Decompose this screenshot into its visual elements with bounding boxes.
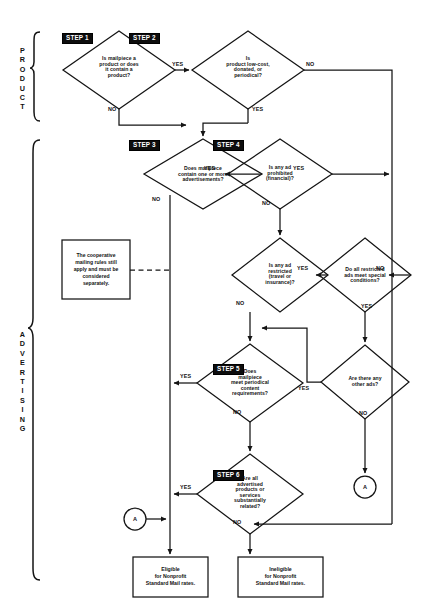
brace-advertising (28, 140, 40, 580)
edge-label-step5-no: NO (233, 409, 241, 415)
edge-label-restricted-no: NO (236, 300, 244, 306)
step5-text: Does mailpiece meet periodical content r… (216, 369, 284, 397)
edge-label-other-yes: YES (298, 385, 309, 391)
ineligible-text: Ineligible for Nonprofit Standard Mail r… (239, 566, 322, 587)
step6-text: Are all advertised products or services … (220, 476, 280, 509)
note-text: The cooperative mailing rules still appl… (64, 252, 128, 286)
eligible-text: Eligible for Nonprofit Standard Mail rat… (134, 566, 207, 587)
edge-label-step1-no: NO (108, 106, 116, 112)
brace-product (30, 32, 40, 121)
step-tag-3: STEP 3 (129, 140, 160, 151)
step-tag-1: STEP 1 (62, 33, 93, 44)
edge-step2-yes (203, 123, 248, 136)
section-label-product: PRODUCT (17, 46, 27, 115)
edge-label-step6-no: NO (233, 519, 241, 525)
edge-label-step2-yes: YES (252, 106, 263, 112)
edge-label-step3-yes: YES (204, 165, 215, 171)
special-conditions-text: Do all restricted ads meet special condi… (325, 267, 405, 284)
edge-label-restricted-yes: YES (297, 265, 308, 271)
edge-label-step5-yes: YES (180, 373, 191, 379)
step3-text: Does mailpiece contain one or more adver… (155, 166, 251, 183)
step2-text: Is product low-cost, donated, or periodi… (208, 56, 288, 78)
edge-label-step4-yes: YES (293, 165, 304, 171)
edge-label-step6-yes: YES (180, 484, 191, 490)
edge-label-step1-yes: YES (172, 61, 183, 67)
edge-label-step3-no: NO (152, 196, 160, 202)
edge-label-step4-no: NO (262, 200, 270, 206)
connector-a-bottom-label: A (129, 516, 141, 522)
flowchart-canvas: PRODUCT ADVERTISING STEP 1 STEP 2 STEP 3… (0, 0, 436, 614)
edge-step1-no (119, 109, 186, 125)
edge-step2-no-rail (304, 70, 392, 524)
section-label-advertising: ADVERTISING (17, 330, 27, 436)
step-tag-2: STEP 2 (129, 33, 160, 44)
edge-label-special-yes: YES (361, 303, 372, 309)
edge-label-other-no: NO (359, 410, 367, 416)
edge-label-special-no: NO (376, 265, 384, 271)
other-ads-text: Are there any other ads? (331, 376, 399, 387)
step1-text: Is mailpiece a product or does it contai… (79, 56, 159, 78)
edge-label-step2-no: NO (306, 61, 314, 67)
connector-a-top-label: A (359, 484, 371, 490)
step-tag-4: STEP 4 (213, 140, 244, 151)
